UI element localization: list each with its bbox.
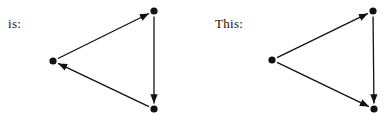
node-left (268, 56, 275, 63)
node-left (49, 57, 56, 64)
directed-graph-canvas (0, 0, 386, 117)
acyclic-graph (268, 7, 377, 112)
node-top (369, 7, 376, 14)
edge-left-to-top (277, 13, 368, 57)
edge-left-to-top (58, 13, 149, 58)
edge-left-to-bottom (277, 62, 369, 106)
node-top (150, 7, 157, 14)
node-bottom (370, 105, 377, 112)
edge-top-to-bottom (373, 17, 374, 104)
edge-bottom-to-left (58, 63, 149, 106)
node-bottom (150, 105, 157, 112)
cyclic-graph (49, 7, 157, 112)
